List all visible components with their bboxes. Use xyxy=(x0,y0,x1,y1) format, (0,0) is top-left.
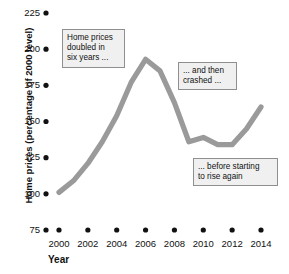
y-axis-tick-label: 75 xyxy=(14,224,40,235)
annotation-before-starting-to-rise: ... before starting to rise again xyxy=(193,158,278,186)
home-prices-line-chart: Home prices (percentage of 2000 level) 7… xyxy=(0,0,289,274)
x-axis-tick-label: 2004 xyxy=(102,238,132,249)
x-axis-tick-label: 2008 xyxy=(159,238,189,249)
x-axis-tick-dot xyxy=(258,227,263,232)
x-axis-tick-dot xyxy=(230,227,235,232)
annotation-line: doubled in xyxy=(67,43,121,53)
annotation-line: ... before starting xyxy=(198,162,274,172)
x-axis-tick-dot xyxy=(172,227,177,232)
x-axis-tick-dot xyxy=(201,227,206,232)
y-axis-tick-label: 175 xyxy=(14,79,40,90)
y-axis-tick-dots xyxy=(43,10,48,232)
annotation-line: to rise again xyxy=(198,172,274,182)
annotation-and-then-crashed: ... and then crashed ... xyxy=(178,62,237,90)
y-axis-tick-dot xyxy=(43,83,48,88)
x-axis-tick-label: 2002 xyxy=(73,238,103,249)
x-axis-tick-dot xyxy=(143,227,148,232)
plot-area xyxy=(0,0,289,274)
y-axis-tick-dot xyxy=(43,227,48,232)
y-axis-tick-dot xyxy=(43,155,48,160)
x-axis-tick-label: 2014 xyxy=(246,238,276,249)
x-axis-tick-dot xyxy=(114,227,119,232)
annotation-line: six years ... xyxy=(67,53,121,63)
y-axis-tick-label: 125 xyxy=(14,151,40,162)
annotation-line: ... and then xyxy=(183,66,233,76)
x-axis-tick-dots xyxy=(56,227,263,232)
y-axis-tick-dot xyxy=(43,10,48,15)
y-axis-tick-dot xyxy=(43,191,48,196)
y-axis-tick-dot xyxy=(43,47,48,52)
y-axis-tick-label: 225 xyxy=(14,7,40,18)
x-axis-tick-dot xyxy=(56,227,61,232)
x-axis-tick-label: 2006 xyxy=(131,238,161,249)
y-axis-tick-label: 150 xyxy=(14,115,40,126)
y-axis-tick-label: 200 xyxy=(14,43,40,54)
x-axis-tick-dot xyxy=(85,227,90,232)
annotation-line: crashed ... xyxy=(183,76,233,86)
y-axis-tick-dot xyxy=(43,119,48,124)
annotation-line: Home prices xyxy=(67,33,121,43)
x-axis-tick-label: 2012 xyxy=(217,238,247,249)
annotation-home-prices-doubled: Home prices doubled in six years ... xyxy=(62,29,125,68)
x-axis-tick-label: 2010 xyxy=(188,238,218,249)
y-axis-tick-label: 100 xyxy=(14,188,40,199)
x-axis-tick-label: 2000 xyxy=(44,238,74,249)
x-axis-title: Year xyxy=(48,254,69,265)
